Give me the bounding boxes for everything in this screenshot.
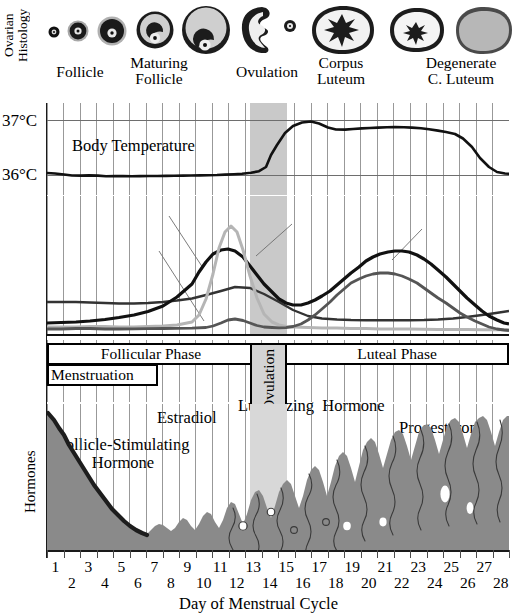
phase-box-follicular: Follicular Phase	[47, 343, 255, 365]
day-axis-tick	[361, 550, 362, 558]
day-label-14: 14	[259, 574, 281, 592]
day-label-16: 16	[292, 574, 314, 592]
endometrium-plot	[47, 404, 509, 550]
phase-box-luteal: Luteal Phase	[285, 343, 509, 365]
ovarian-icon-graafian-follicle	[182, 6, 230, 54]
endometrial-histology-panel: Endometrial Histology	[0, 404, 517, 550]
day-label-2: 2	[61, 574, 83, 592]
ovarian-caption-maturing-follicle: Maturing Follicle	[118, 55, 200, 86]
ovarian-caption-degenerate-corpus-luteum: Degenerate C. Luteum	[409, 55, 513, 86]
day-label-4: 4	[94, 574, 116, 592]
temperature-tick-36c: 36°C	[2, 165, 37, 185]
ovarian-icon-primary-follicle	[68, 21, 89, 42]
day-axis-tick	[493, 550, 494, 558]
curve-luteinizing-hormone	[47, 226, 509, 330]
phase-label-ovulation: Ovulation	[260, 349, 278, 411]
day-axis-tick	[80, 550, 81, 558]
day-axis-tick	[328, 550, 329, 558]
day-axis-tick	[427, 550, 428, 558]
hormones-baseline-rule	[46, 334, 509, 336]
body-temperature-label: Body Temperature	[72, 136, 195, 156]
day-axis-title: Day of Menstrual Cycle	[0, 594, 517, 614]
day-axis-tick	[509, 550, 510, 558]
day-label-24: 24	[424, 574, 446, 592]
day-axis-tick	[113, 550, 114, 558]
curve-estradiol	[47, 249, 509, 324]
day-axis-tick	[262, 550, 263, 558]
phase-label-menstruation: Menstruation	[51, 366, 134, 384]
day-axis-tick	[64, 550, 65, 558]
endometrium-body	[47, 412, 509, 550]
cycle-phase-bar: Follicular Phase Luteal Phase Menstruati…	[0, 340, 517, 402]
body-temperature-panel: 37°C 36°C Body Temperature	[0, 103, 517, 195]
day-axis-tick	[377, 550, 378, 558]
day-axis-panel: 1234567891011121314151617181920212223242…	[0, 550, 517, 615]
endometrium-tissue	[47, 404, 509, 550]
day-axis-tick	[179, 550, 180, 558]
day-axis-tick	[130, 550, 131, 558]
day-axis-tick	[394, 550, 395, 558]
day-label-22: 22	[391, 574, 413, 592]
day-label-20: 20	[358, 574, 380, 592]
day-axis-tick	[163, 550, 164, 558]
day-axis-tick	[278, 550, 279, 558]
day-label-18: 18	[325, 574, 347, 592]
ovarian-icon-corpus-luteum	[312, 6, 374, 54]
day-axis-tick	[295, 550, 296, 558]
temperature-tick-37c: 37°C	[2, 111, 37, 131]
day-axis-tick	[476, 550, 477, 558]
ovarian-icon-maturing-follicle	[137, 12, 174, 49]
day-axis-tick	[460, 550, 461, 558]
ovarian-icon-ovulation-rupture	[242, 7, 296, 53]
day-axis-tick	[344, 550, 345, 558]
ovarian-histology-panel: Ovarian Histology	[0, 0, 517, 90]
hormones-plot	[47, 196, 509, 336]
hormones-panel: Hormones Follicle-Stimulating Hormone Es…	[0, 196, 517, 336]
day-label-6: 6	[127, 574, 149, 592]
ovarian-caption-follicle: Follicle	[30, 63, 130, 81]
day-axis-tick	[245, 550, 246, 558]
day-axis-tick	[229, 550, 230, 558]
day-axis-tick	[196, 550, 197, 558]
ovarian-stage-icons	[0, 2, 517, 60]
phase-label-follicular: Follicular Phase	[101, 345, 201, 363]
menstrual-cycle-figure: Ovarian Histology	[0, 0, 517, 615]
day-axis-tick	[443, 550, 444, 558]
phase-box-menstruation: Menstruation	[47, 364, 158, 386]
day-label-26: 26	[457, 574, 479, 592]
day-label-12: 12	[226, 574, 248, 592]
day-axis-tick	[146, 550, 147, 558]
day-label-8: 8	[160, 574, 182, 592]
ovarian-icon-corpus-albicans	[456, 7, 512, 54]
day-axis-tick	[410, 550, 411, 558]
day-axis-tick	[212, 550, 213, 558]
hormone-curves	[47, 196, 509, 336]
day-label-28: 28	[490, 574, 512, 592]
curve-fsh	[47, 287, 509, 320]
ovarian-caption-ovulation: Ovulation	[221, 63, 313, 81]
ovarian-icon-secondary-follicle	[98, 17, 127, 46]
day-axis-tick	[97, 550, 98, 558]
phase-label-luteal: Luteal Phase	[357, 345, 437, 363]
day-label-10: 10	[193, 574, 215, 592]
ovarian-caption-corpus-luteum: Corpus Luteum	[303, 55, 379, 86]
day-axis-tick	[47, 550, 48, 558]
ovarian-icon-primordial-follicle	[49, 27, 60, 38]
ovarian-icon-corpus-luteum-regressing	[390, 8, 444, 52]
day-axis-tick	[311, 550, 312, 558]
